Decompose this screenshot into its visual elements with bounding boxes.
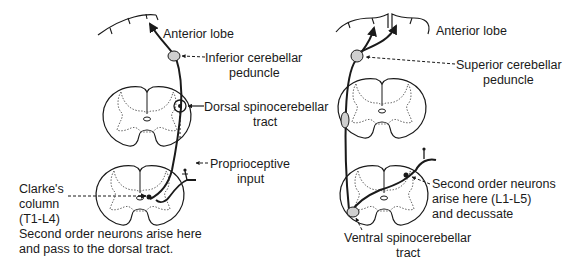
left-anterior-lobe-label: Anterior lobe — [163, 27, 234, 42]
left-note-line-2: and pass to the dorsal tract. — [19, 242, 173, 257]
second-order-label-1: Second order neurons — [432, 177, 556, 192]
right-upper-cord-section — [338, 79, 426, 138]
second-order-label-2: arise here (L1-L5) — [432, 192, 531, 207]
left-note-line-1: Second order neurons arise here — [19, 227, 202, 242]
left-panel — [68, 14, 208, 225]
superior-peduncle-label-1: Superior cerebellar — [456, 58, 562, 73]
ventral-tract-label-2: tract — [396, 246, 420, 261]
left-cerebellum-outline — [98, 15, 156, 35]
dorsal-tract-label-1: Dorsal spinocerebellar — [204, 100, 328, 115]
clarke-label-1: Clarke's — [19, 182, 64, 197]
right-cerebellum-outline — [336, 14, 429, 34]
second-order-label-3: and decussate — [432, 207, 513, 222]
clarke-label-3: (T1-L4) — [19, 212, 60, 227]
clarke-label-2: column — [19, 197, 59, 212]
ventral-tract-label-1: Ventral spinocerebellar — [344, 231, 471, 246]
proprioceptive-label-1: Proprioceptive — [210, 157, 290, 172]
right-anterior-lobe-label: Anterior lobe — [436, 24, 507, 39]
inferior-peduncle-label-1: Inferior cerebellar — [205, 51, 302, 66]
inferior-peduncle-label-2: peduncle — [229, 66, 280, 81]
superior-peduncle-label-2: peduncle — [483, 73, 534, 88]
proprioceptive-label-2: input — [237, 172, 264, 187]
dorsal-tract-label-2: tract — [253, 115, 277, 130]
